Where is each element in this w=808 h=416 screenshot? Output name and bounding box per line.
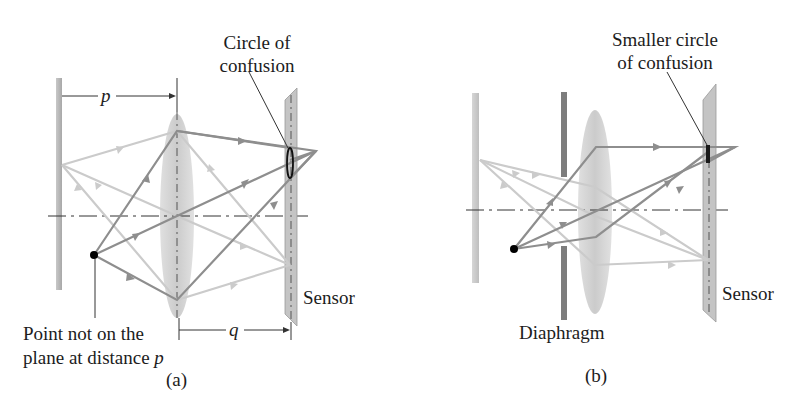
- q-label: q: [229, 318, 239, 341]
- callout-leader-b: [667, 72, 707, 145]
- object-point-b[interactable]: [510, 245, 518, 253]
- dimension-p: [62, 78, 177, 112]
- defocused-rays-b: [514, 147, 735, 249]
- object-plane-b: [472, 93, 479, 283]
- callout-line-1: Circle of: [202, 31, 312, 54]
- sensor-label-b: Sensor: [722, 282, 774, 305]
- circle-of-confusion-b: [706, 145, 710, 163]
- point-label-var: p: [154, 347, 164, 368]
- object-plane-a: [56, 78, 62, 290]
- caption-b: (b): [585, 364, 607, 387]
- callout-line-1: Smaller circle: [600, 28, 730, 51]
- panel-a: [48, 72, 316, 340]
- diaphragm-upper: [561, 92, 567, 177]
- diaphragm-lower: [561, 246, 567, 320]
- circle-of-confusion-label-a: Circle of confusion: [202, 31, 312, 77]
- sensor-label-a: Sensor: [303, 286, 355, 309]
- point-label-text: plane at distance: [23, 347, 150, 368]
- callout-line-2: confusion: [202, 54, 312, 77]
- callout-leader-a: [249, 72, 288, 148]
- ray-arrows-a: [126, 137, 278, 281]
- point-label-line2: plane at distance p: [23, 346, 164, 369]
- p-label: p: [101, 84, 111, 107]
- object-point-a[interactable]: [90, 251, 98, 259]
- point-label-line1: Point not on the: [23, 322, 144, 345]
- callout-line-2: of confusion: [600, 51, 730, 74]
- diaphragm-label: Diaphragm: [519, 321, 604, 344]
- caption-a: (a): [166, 368, 187, 391]
- circle-of-confusion-label-b: Smaller circle of confusion: [600, 28, 730, 74]
- panel-b: [466, 72, 735, 322]
